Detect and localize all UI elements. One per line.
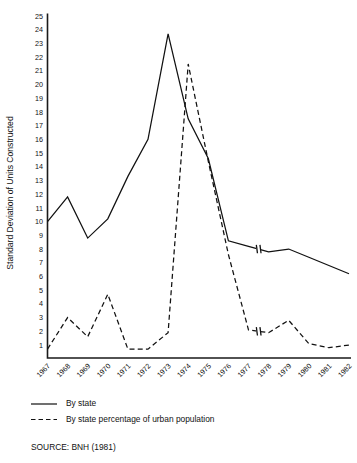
y-axis-tick-label: 22 — [35, 53, 43, 62]
x-axis-tick-label: 1979 — [276, 362, 294, 380]
x-axis-tick-label: 1976 — [215, 362, 233, 380]
y-axis-tick-label: 2 — [39, 327, 43, 336]
axis-frame — [48, 14, 352, 359]
x-axis-tick-label: 1970 — [95, 362, 113, 380]
axis-break-marks — [256, 245, 261, 336]
y-axis-tick-labels: 2524232221201918171615141312111098765432… — [35, 12, 43, 350]
x-axis-tick-label: 1972 — [135, 362, 153, 380]
break-slash — [256, 327, 257, 335]
y-axis-tick-label: 15 — [35, 149, 43, 158]
y-axis-tick-label: 23 — [35, 39, 43, 48]
x-axis-tick-label: 1975 — [195, 362, 213, 380]
legend-label: By state percentage of urban population — [66, 414, 215, 424]
y-axis-tick-label: 7 — [39, 258, 43, 267]
y-axis-tick-label: 10 — [35, 217, 43, 226]
series-line-dashed — [48, 64, 350, 349]
y-axis-tick-label: 25 — [35, 12, 43, 21]
y-axis-tick-label: 3 — [39, 313, 43, 322]
x-axis-tick-label: 1974 — [175, 362, 193, 380]
y-axis-tick-label: 8 — [39, 245, 43, 254]
chart-svg: Standard Deviation of Units Constructed … — [0, 0, 357, 463]
y-axis-tick-label: 14 — [35, 162, 43, 171]
y-axis-tick-label: 17 — [35, 121, 43, 130]
y-axis-tick-label: 4 — [39, 299, 43, 308]
y-axis-tick-label: 13 — [35, 176, 43, 185]
break-slash — [256, 245, 257, 253]
axes-lines — [48, 14, 352, 359]
legend-label: By state — [66, 398, 97, 408]
y-axis-tick-label: 24 — [35, 25, 43, 34]
y-axis-tick-label: 18 — [35, 108, 43, 117]
series-layer — [48, 34, 350, 349]
x-axis-tick-label: 1973 — [155, 362, 173, 380]
series-line-solid — [48, 34, 350, 274]
y-axis-tick-label: 19 — [35, 94, 43, 103]
x-axis-tick-label: 1980 — [296, 362, 314, 380]
x-axis-tick-label: 1967 — [34, 362, 52, 380]
x-axis-tick-label: 1981 — [316, 362, 334, 380]
break-slash — [260, 327, 261, 335]
x-axis-tick-label: 1978 — [256, 362, 274, 380]
source-note: SOURCE: BNH (1981) — [31, 442, 116, 452]
y-axis-tick-label: 11 — [36, 204, 43, 213]
chart-figure: Standard Deviation of Units Constructed … — [0, 0, 357, 463]
x-axis-tick-label: 1968 — [55, 362, 73, 380]
y-axis-tick-label: 1 — [39, 341, 43, 350]
x-axis-tick-label: 1982 — [336, 362, 354, 380]
x-axis-tick-labels: 1967196819691970197119721973197419751976… — [34, 362, 353, 380]
y-axis-tick-label: 16 — [35, 135, 43, 144]
y-axis-title: Standard Deviation of Units Constructed — [5, 116, 15, 270]
y-axis-title-group: Standard Deviation of Units Constructed — [5, 116, 15, 270]
x-axis-tick-label: 1969 — [75, 362, 93, 380]
y-axis-tick-label: 20 — [35, 80, 43, 89]
chart-legend: By stateBy state percentage of urban pop… — [31, 398, 215, 424]
y-axis-tick-label: 6 — [39, 272, 43, 281]
x-axis-tick-label: 1977 — [235, 362, 253, 380]
y-axis-tick-label: 21 — [35, 66, 43, 75]
y-axis-tick-label: 5 — [39, 286, 43, 295]
break-slash — [260, 245, 261, 253]
y-axis-tick-label: 12 — [35, 190, 43, 199]
y-axis-tick-label: 9 — [39, 231, 43, 240]
x-axis-tick-label: 1971 — [115, 362, 133, 380]
